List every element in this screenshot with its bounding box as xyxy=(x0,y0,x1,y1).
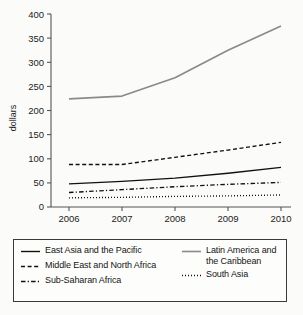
plot-svg: dollars 400 350 300 250 200 150 100 50 0 xyxy=(0,0,303,232)
y-tick-label-0: 0 xyxy=(39,201,44,212)
plot-area: dollars 400 350 300 250 200 150 100 50 0 xyxy=(0,0,303,232)
series-line-east-asia-and-the-pacific xyxy=(69,167,281,183)
y-tick-label-300: 300 xyxy=(28,57,44,68)
chart-legend: East Asia and the Pacific Middle East an… xyxy=(13,239,287,302)
x-axis-ticks xyxy=(69,207,281,211)
y-tick-label-400: 400 xyxy=(28,9,44,20)
series-line-middle-east-and-north-africa xyxy=(69,142,281,164)
legend-label: South Asia xyxy=(206,269,248,280)
legend-line-solid-icon xyxy=(21,246,40,257)
x-tick-label-2008: 2008 xyxy=(164,213,185,224)
line-chart-figure: dollars 400 350 300 250 200 150 100 50 0 xyxy=(0,0,303,315)
x-tick-label-2009: 2009 xyxy=(217,213,238,224)
legend-label: East Asia and the Pacific xyxy=(45,245,142,256)
y-tick-label-150: 150 xyxy=(28,129,44,140)
series-line-latin-america-and-the-caribbean xyxy=(69,26,281,99)
legend-line-dotted-icon xyxy=(182,270,201,281)
legend-item-sub-saharan-africa: Sub-Saharan Africa xyxy=(21,275,179,287)
y-tick-label-50: 50 xyxy=(33,177,44,188)
legend-label: Sub-Saharan Africa xyxy=(45,275,121,286)
x-tick-label-2010: 2010 xyxy=(270,213,291,224)
legend-item-south-asia: South Asia xyxy=(182,269,286,281)
y-tick-label-250: 250 xyxy=(28,81,44,92)
legend-column-left: East Asia and the Pacific Middle East an… xyxy=(21,245,179,290)
series-line-sub-saharan-africa xyxy=(69,182,281,192)
y-axis-ticks xyxy=(47,14,51,207)
y-axis-label: dollars xyxy=(8,104,18,131)
legend-item-middle-east-and-north-africa: Middle East and North Africa xyxy=(21,260,179,272)
y-tick-label-100: 100 xyxy=(28,153,44,164)
legend-label: Latin America and the Caribbean xyxy=(206,245,286,266)
legend-line-dash-dot-icon xyxy=(21,276,40,287)
legend-line-dashed-icon xyxy=(21,261,40,272)
series-layer xyxy=(69,26,281,198)
series-line-south-asia xyxy=(69,195,281,198)
x-tick-label-2006: 2006 xyxy=(58,213,79,224)
legend-line-solid-gray-icon xyxy=(182,246,201,257)
y-tick-label-350: 350 xyxy=(28,33,44,44)
legend-item-latin-america-and-the-caribbean: Latin America and the Caribbean xyxy=(182,245,286,266)
legend-item-east-asia-and-the-pacific: East Asia and the Pacific xyxy=(21,245,179,257)
legend-label: Middle East and North Africa xyxy=(45,260,156,271)
y-tick-label-200: 200 xyxy=(28,105,44,116)
legend-column-right: Latin America and the Caribbean South As… xyxy=(182,245,286,284)
x-tick-label-2007: 2007 xyxy=(111,213,132,224)
